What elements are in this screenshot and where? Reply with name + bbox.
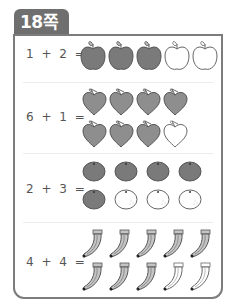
peach-icon [108,86,135,116]
tangerine-outline-icon [114,188,138,210]
peach-icon [135,118,162,148]
banana-icon [161,229,188,259]
peach-icon [162,86,189,116]
apple-icon [79,40,107,72]
tangerine-outline-icon [146,188,170,210]
fruit-group [81,86,189,148]
row-divider [23,153,213,154]
tangerine-outline-icon [178,188,202,210]
peach-icon [135,86,162,116]
page-number-tab: 18쪽 [14,9,69,36]
tangerine-icon [114,160,138,182]
row-divider [23,222,213,223]
problem-row-1: 1 + 2 = [15,36,221,80]
problem-row-2: 6 + 1 = [15,84,221,150]
banana-outline-icon [188,262,215,292]
peach-icon [81,118,108,148]
peach-icon [108,118,135,148]
banana-icon [134,229,161,259]
banana-icon [80,262,107,292]
banana-icon [107,229,134,259]
equation-text: 1 + 2 = [26,47,87,61]
row-divider [23,82,213,83]
page-number-label: 18쪽 [20,12,58,32]
equation-text: 4 + 4 = [26,255,87,269]
banana-outline-icon [161,262,188,292]
worksheet-frame: 1 + 2 = 6 + 1 = [13,34,223,299]
apple-outline-icon [163,40,191,72]
fruit-group [82,160,202,210]
apple-icon [135,40,163,72]
equation-text: 2 + 3 = [26,182,87,196]
tangerine-icon [178,160,202,182]
tangerine-icon [146,160,170,182]
fruit-group [79,40,219,72]
fruit-group [80,229,215,292]
banana-icon [80,229,107,259]
banana-icon [107,262,134,292]
banana-icon [134,262,161,292]
apple-outline-icon [191,40,219,72]
tangerine-icon [82,160,106,182]
equation-text: 6 + 1 = [26,110,87,124]
apple-icon [107,40,135,72]
problem-row-3: 2 + 3 = [15,156,221,220]
peach-outline-icon [162,118,189,148]
banana-icon [188,229,215,259]
peach-icon [81,86,108,116]
tangerine-icon [82,188,106,210]
problem-row-4: 4 + 4 = [15,226,221,296]
